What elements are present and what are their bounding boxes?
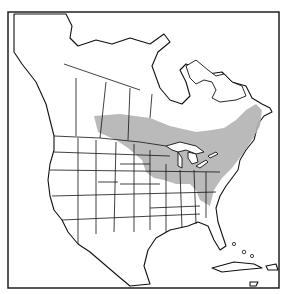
jamaica xyxy=(250,282,258,286)
bahamas xyxy=(232,242,235,245)
bahamas-2 xyxy=(242,250,246,254)
range-map xyxy=(0,0,287,294)
bahamas-3 xyxy=(250,254,253,257)
